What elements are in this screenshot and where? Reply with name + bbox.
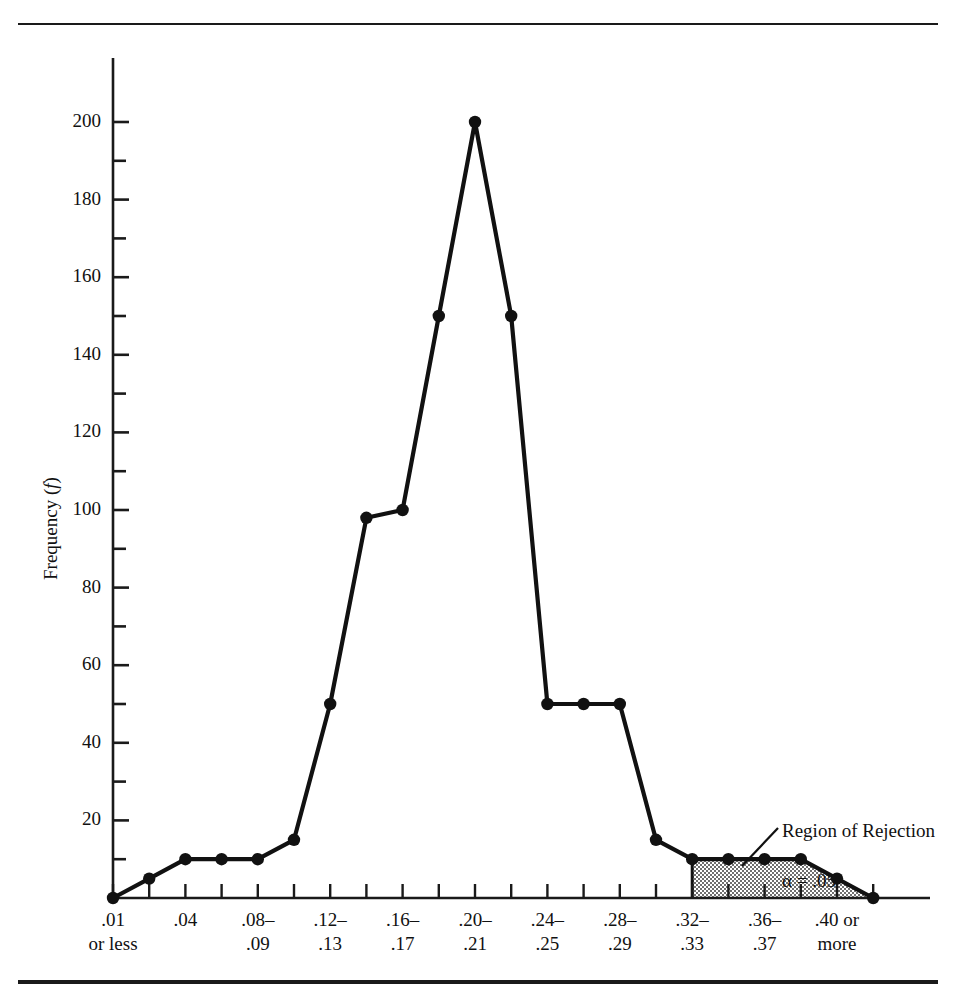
figure-container: Frequency (f) 20406080100120140160180200… [0, 0, 955, 1008]
frequency-polyline [113, 122, 873, 898]
y-tick-label: 40 [37, 731, 101, 753]
data-point [288, 834, 300, 846]
data-point [252, 853, 264, 865]
data-point [505, 310, 517, 322]
data-point [577, 698, 589, 710]
y-tick-label: 60 [37, 653, 101, 675]
data-point [433, 310, 445, 322]
y-tick-label: 180 [37, 188, 101, 210]
data-point-markers [107, 116, 880, 904]
data-point [686, 853, 698, 865]
data-point [614, 698, 626, 710]
data-point [469, 116, 481, 128]
data-point [360, 512, 372, 524]
y-tick-label: 200 [37, 110, 101, 132]
data-point [215, 853, 227, 865]
data-point [758, 853, 770, 865]
rejection-region-annotation: Region of Rejection α = .05 [782, 793, 935, 918]
rejection-region-label: Region of Rejection [782, 818, 935, 843]
y-axis-ticks [113, 122, 129, 859]
y-tick-label: 140 [37, 343, 101, 365]
y-tick-label: 100 [37, 498, 101, 520]
data-point [541, 698, 553, 710]
data-point [650, 834, 662, 846]
y-tick-label: 20 [37, 808, 101, 830]
data-point [324, 698, 336, 710]
data-point [396, 504, 408, 516]
y-tick-label: 160 [37, 265, 101, 287]
data-point [143, 872, 155, 884]
alpha-level-label: α = .05 [782, 868, 935, 893]
data-point [722, 853, 734, 865]
data-point [179, 853, 191, 865]
data-point [107, 892, 119, 904]
y-tick-label: 80 [37, 576, 101, 598]
y-tick-label: 120 [37, 420, 101, 442]
